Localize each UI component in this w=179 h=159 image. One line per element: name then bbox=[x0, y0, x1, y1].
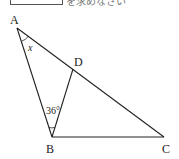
angle-label-36: 36° bbox=[46, 105, 60, 116]
triangle-diagram: A B C D x 36° bbox=[0, 0, 179, 159]
angle-label-x: x bbox=[27, 42, 33, 53]
segment-ab bbox=[17, 28, 52, 137]
vertex-label-a: A bbox=[10, 13, 19, 27]
segment-ac bbox=[17, 28, 164, 137]
angle-arc-b bbox=[49, 127, 55, 128]
vertex-label-d: D bbox=[74, 55, 83, 69]
vertex-label-c: C bbox=[162, 142, 170, 156]
angle-arc-a bbox=[21, 36, 28, 41]
vertex-label-b: B bbox=[46, 142, 54, 156]
segment-bd bbox=[52, 69, 73, 137]
